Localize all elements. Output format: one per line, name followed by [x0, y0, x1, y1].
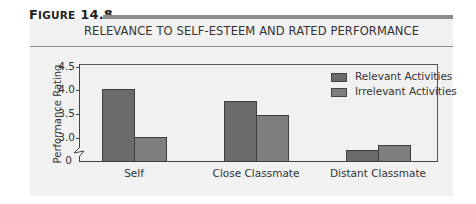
legend-label-relevant: Relevant Activities [355, 70, 452, 82]
chart-title: RELEVANCE TO SELF-ESTEEM AND RATED PERFO… [84, 24, 419, 38]
bar-self-relevant [102, 89, 135, 162]
y-tick [76, 67, 80, 68]
y-tick [76, 114, 80, 115]
y-axis [79, 64, 80, 148]
bar-distant-relevant [346, 150, 379, 162]
axis-break-icon [72, 146, 86, 158]
legend-label-irrelevant: Irrelevant Activities [355, 85, 457, 97]
x-category-label: Distant Classmate [318, 167, 438, 179]
y-tick [76, 138, 80, 139]
title-divider [30, 46, 453, 47]
x-category-label: Close Classmate [196, 167, 316, 179]
bar-close-irrelevant [256, 115, 289, 162]
legend-swatch-relevant [331, 73, 347, 82]
bar-distant-irrelevant [378, 145, 411, 162]
x-category-label: Self [74, 167, 194, 179]
bar-self-irrelevant [134, 137, 167, 162]
legend-swatch-irrelevant [331, 88, 347, 97]
y-tick [76, 90, 80, 91]
y-axis-title: Performance Rating [52, 65, 63, 164]
plot-frame-top [79, 64, 437, 65]
bar-close-relevant [224, 101, 257, 162]
